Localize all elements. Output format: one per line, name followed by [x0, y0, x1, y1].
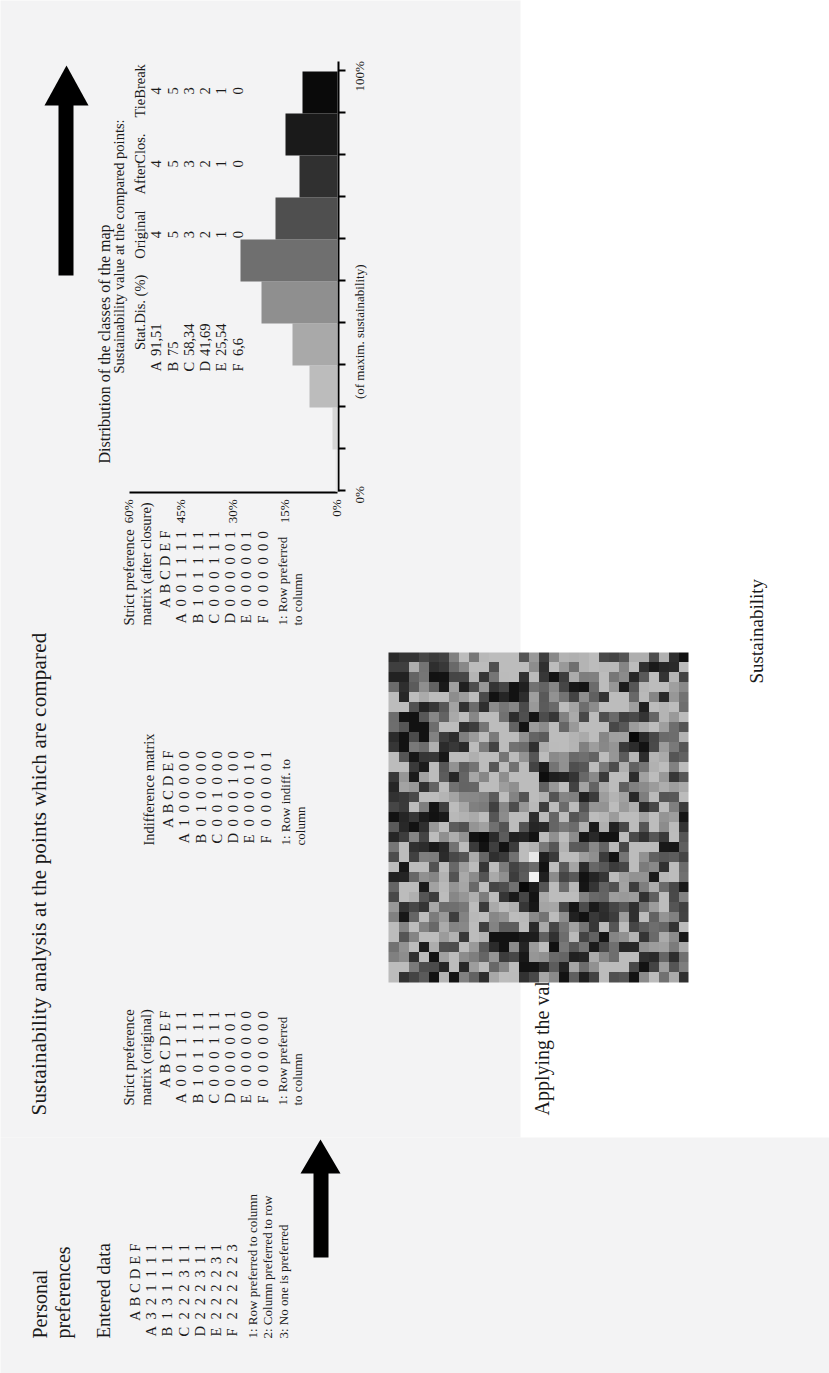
cell: 0 — [224, 748, 240, 760]
cell: 1 — [205, 1033, 221, 1047]
histogram-x-label-mid: (of maxim. sustainability) — [351, 264, 367, 399]
cell: 0 — [257, 801, 273, 815]
histogram-y-tick-label: 15% — [276, 499, 292, 545]
col-header: C — [126, 1281, 142, 1295]
cell: 1 — [158, 1241, 174, 1253]
cell: 0 — [254, 1033, 270, 1047]
cell: 0 — [205, 1061, 221, 1075]
row-header: A — [172, 1090, 188, 1105]
personal-preferences-title: Personal preferences — [28, 1188, 74, 1338]
cell: 0 — [257, 760, 273, 773]
cell: 3 — [142, 1308, 158, 1322]
histogram-y-tick-label: 45% — [172, 499, 188, 545]
table-row: E 0 0 0 0 1 0 — [240, 748, 256, 845]
cell: 0 — [254, 1008, 270, 1020]
cell: 2 — [207, 1294, 223, 1308]
cell: 3 — [191, 1266, 207, 1280]
row-header: D — [221, 1090, 237, 1105]
col-header: C — [159, 788, 175, 802]
cell: 0 — [237, 1061, 253, 1075]
cell: 1 — [158, 1266, 174, 1280]
cell: 1 — [158, 1253, 174, 1266]
cell: 0 — [208, 815, 224, 829]
cell: 2 — [223, 1266, 239, 1280]
histogram-x-tick — [338, 69, 345, 71]
row-header: A — [142, 1323, 158, 1338]
cell: 0 — [224, 788, 240, 802]
histogram-bar — [240, 240, 337, 282]
row-header: F — [257, 830, 273, 845]
histogram-y-tick-label: 0% — [328, 499, 344, 545]
cell: 0 — [240, 788, 256, 802]
col-header: B — [159, 801, 175, 815]
cell: 1 — [205, 1008, 221, 1020]
cell: 0 — [240, 773, 256, 787]
col-header: B — [126, 1294, 142, 1308]
row-header: B — [158, 1323, 174, 1338]
cell: 0 — [189, 1061, 205, 1075]
table-row: B 0 1 0 0 0 0 — [192, 748, 208, 845]
cell: 1 — [172, 1020, 188, 1033]
cell: 0 — [175, 773, 191, 787]
table-row: C 0 0 0 1 1 1 — [205, 1008, 221, 1105]
histogram-x-label-left: 0% — [351, 486, 367, 503]
table-header-row: A B C D E F — [156, 1008, 172, 1105]
cell: 0 — [192, 788, 208, 802]
histogram-x-tick — [338, 111, 345, 113]
histogram-x-tick — [338, 153, 345, 155]
main-title: Sustainability analysis at the points wh… — [26, 632, 51, 1115]
cell: 1 — [207, 1241, 223, 1253]
row-header: C — [208, 830, 224, 845]
cell: 0 — [221, 1020, 237, 1033]
cell: 0 — [257, 788, 273, 802]
cell: 0 — [192, 815, 208, 829]
table-row: F 0 0 0 0 0 0 — [254, 1008, 270, 1105]
cell: 1 — [175, 1241, 191, 1253]
row-header: E — [240, 830, 256, 845]
cell: 0 — [224, 815, 240, 829]
cell: 3 — [175, 1266, 191, 1280]
cell: 0 — [254, 1048, 270, 1062]
cell: 0 — [192, 773, 208, 787]
col-header: F — [159, 748, 175, 760]
col-header: F — [126, 1241, 142, 1253]
strict-preference-original-legend: 1: Row preferred to column — [274, 1008, 305, 1105]
cell: 2 — [175, 1308, 191, 1322]
cell: 0 — [237, 1020, 253, 1033]
table-row: C 2 2 2 3 1 1 — [175, 1241, 191, 1338]
entered-data-table: A B C D E F A 3 2 1 1 1 1 B 1 3 1 1 — [126, 1241, 240, 1338]
col-header: A — [156, 1075, 172, 1089]
cell: 0 — [175, 760, 191, 773]
indifference-matrix-legend: 1: Row indiff. to column — [277, 733, 308, 845]
histogram-bar — [299, 156, 337, 198]
cell: 2 — [207, 1281, 223, 1295]
cell: 1 — [189, 1048, 205, 1062]
histogram-x-tick — [338, 195, 345, 197]
histogram-x-tick — [338, 489, 345, 491]
histogram-x-tick — [338, 237, 345, 239]
cell: 0 — [237, 1033, 253, 1047]
cell: 0 — [224, 760, 240, 773]
cell: 2 — [207, 1266, 223, 1280]
indifference-matrix-title: Indifference matrix — [140, 733, 157, 845]
cell: 0 — [172, 1061, 188, 1075]
indifference-matrix-block: Indifference matrix A B C D E F A 1 0 0 … — [140, 733, 308, 845]
cell: 0 — [221, 1048, 237, 1062]
col-header: D — [126, 1266, 142, 1280]
table-row: A 1 0 0 0 0 0 — [175, 748, 191, 845]
col-header: D — [156, 1033, 172, 1047]
col-header: E — [159, 760, 175, 773]
cell: 2 — [207, 1308, 223, 1322]
cell: 0 — [221, 1033, 237, 1047]
cell: 1 — [191, 1241, 207, 1253]
cell: 0 — [237, 1048, 253, 1062]
cell: 0 — [205, 1075, 221, 1089]
cell: 0 — [240, 748, 256, 760]
cell: 2 — [191, 1294, 207, 1308]
cell: 2 — [175, 1294, 191, 1308]
row-header: D — [224, 830, 240, 845]
row-header: C — [205, 1090, 221, 1105]
histogram-x-tick — [338, 405, 345, 407]
cell: 1 — [142, 1253, 158, 1266]
indifference-matrix-table: A B C D E F A 1 0 0 0 0 0 B 0 1 0 0 — [159, 748, 273, 845]
